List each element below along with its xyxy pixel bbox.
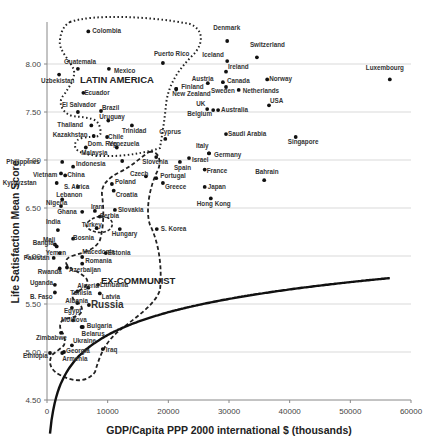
point-label: Bahrain [255, 168, 279, 175]
point-label: Nigeria [46, 199, 68, 207]
point-label: Slovakia [118, 206, 144, 213]
point-label: Bangla. [33, 239, 56, 247]
y-tick-label: 7.50 [25, 108, 41, 117]
y-axis-title: Life Satisfaction Mean Score [9, 160, 21, 303]
point-label: Slovenia [142, 158, 168, 165]
point-label: Cyprus [159, 128, 181, 136]
x-tick-labels: 0100002000030000400005000060000 [45, 407, 423, 416]
point-label: Puerto Rico [154, 50, 189, 57]
scatter-chart: 4.505.005.506.006.507.007.508.00 0100002… [0, 0, 432, 445]
x-tick-label: 30000 [218, 407, 241, 416]
point-label: El Salvador [62, 101, 97, 108]
point-label: Finland [181, 83, 204, 90]
point-label: Egypt [64, 307, 82, 315]
data-point [155, 227, 159, 231]
point-label: Ukraine [73, 337, 97, 344]
point-label: Croatia [116, 191, 138, 198]
point-label: Vietnam [33, 171, 58, 178]
point-label: China [67, 171, 85, 178]
data-point [163, 137, 167, 141]
point-label: Lebanon [56, 191, 82, 198]
data-point [187, 156, 191, 160]
point-label: Uganda [30, 279, 54, 287]
point-label: Norway [269, 75, 292, 83]
point-label: Estonia [108, 249, 131, 256]
point-label: Uzbekistan [41, 77, 74, 84]
point-label: UK [196, 100, 206, 107]
point-label: Malaysia [81, 149, 108, 157]
x-tick-label: 20000 [157, 407, 180, 416]
point-label: S. Africa [64, 183, 90, 190]
point-label: Bosnia [73, 234, 94, 241]
data-point [120, 159, 124, 163]
x-axis-title: GDP/Capita PPP 2000 international $ (tho… [106, 424, 351, 436]
y-tick-label: 4.50 [25, 396, 41, 405]
point-label: Albania [65, 297, 88, 304]
point-label: Armenia [62, 355, 88, 362]
point-label: Bulgaria [87, 322, 113, 330]
point-label: Turkey [82, 221, 103, 229]
data-points: ColombiaGuatemalaMexicoUzbekistanEcuador… [3, 24, 404, 362]
y-tick-label: 5.50 [25, 300, 41, 309]
point-label: Belarus [82, 330, 106, 337]
y-tick-label: 8.00 [25, 60, 41, 69]
point-label: Guatemala [64, 58, 97, 65]
point-label: Netherlands [243, 87, 280, 94]
point-label: Russia [91, 299, 124, 310]
data-point [110, 182, 114, 186]
point-label: B. Faso [30, 293, 53, 300]
data-point [237, 88, 241, 92]
point-label: Spain [174, 164, 191, 172]
data-point [161, 61, 165, 65]
point-label: Luxembourg [366, 64, 404, 72]
point-label: Poland [115, 178, 136, 185]
point-label: Israel [192, 156, 209, 163]
point-label: Kazakhstan [53, 131, 88, 138]
data-point [225, 39, 229, 43]
data-point [55, 181, 59, 185]
data-point [80, 210, 84, 214]
point-label: Belgium [187, 110, 212, 118]
data-point [86, 30, 90, 34]
x-tick-label: 60000 [400, 407, 423, 416]
data-point [89, 124, 93, 128]
x-tick-label: 50000 [339, 407, 362, 416]
data-point [113, 208, 117, 212]
point-label: Azerbaijan [69, 266, 101, 274]
point-label: Iran [91, 203, 103, 210]
point-label: Japan [208, 183, 226, 191]
point-label: USA [270, 97, 284, 104]
point-label: Brazil [102, 104, 119, 111]
point-label: Venezuela [109, 140, 140, 147]
data-point [92, 134, 96, 138]
data-point [48, 351, 52, 355]
point-label: Uruguay [99, 113, 125, 121]
point-label: Zimbabwe [36, 334, 67, 341]
point-label: Greece [165, 183, 187, 190]
data-point [76, 67, 80, 71]
point-label: Trinidad [122, 127, 147, 134]
point-label: Pakistan [24, 254, 50, 261]
point-label: Portugal [160, 172, 186, 180]
data-point [388, 78, 392, 82]
data-point [207, 151, 211, 155]
data-point [60, 160, 64, 164]
point-label: Singapore [288, 138, 319, 146]
point-label: Australia [221, 106, 248, 113]
data-point [216, 108, 220, 112]
point-label: Canada [227, 77, 250, 84]
point-label: Austria [192, 75, 214, 82]
data-point [101, 347, 105, 351]
data-point [107, 67, 111, 71]
point-label: Hungary [112, 230, 138, 238]
point-label: New Zealand [172, 90, 211, 97]
point-label: Indonesia [76, 160, 106, 167]
point-label: Hong Kong [197, 200, 231, 208]
x-tick-label: 0 [45, 407, 50, 416]
point-label: Georgia [66, 347, 90, 355]
point-label: Ecuador [84, 89, 110, 96]
data-point [52, 256, 56, 260]
x-tick-label: 10000 [97, 407, 120, 416]
latin-america-label: LATIN AMERICA [80, 74, 154, 85]
data-point [59, 172, 63, 176]
